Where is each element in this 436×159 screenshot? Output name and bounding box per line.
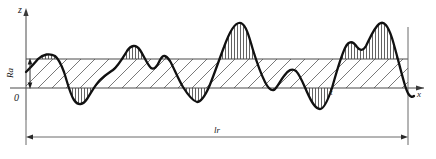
z-axis-arrowhead [23,8,28,16]
z-axis-label: z [17,4,22,15]
ra-label: Ra [5,68,15,79]
origin-label: 0 [14,92,19,103]
x-axis-end-label: x [416,89,421,99]
sampling-length-label: lr [214,125,221,135]
roughness-profile-svg: z x x 0 Ra lr [0,0,436,159]
profile-vertical-hatch-upper [26,8,408,59]
x-axis-inner-label: x [328,88,333,97]
roughness-profile-figure: z x x 0 Ra lr [0,0,436,159]
lr-dimension-arrow [26,135,408,140]
